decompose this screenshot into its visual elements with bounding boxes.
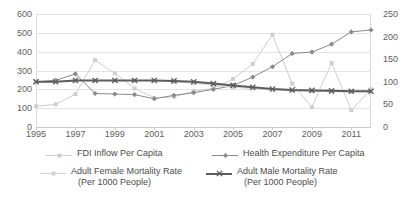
data-point-marker [112,91,117,96]
chart-container: 0100200300400500600 050100150200250 1995… [0,0,407,210]
data-point-marker [113,71,117,75]
x-axis-tick-label: 1997 [65,130,85,139]
x-axis-tick-label: 1995 [26,130,46,139]
legend-label-sub: (Per 1000 People) [71,177,182,188]
plot-area [36,14,371,127]
data-point-marker [250,74,255,79]
data-point-marker [54,102,58,106]
legend-marker-icon [206,168,232,179]
secondary-axis-tick-label: 150 [383,55,398,64]
data-point-marker [217,171,222,176]
primary-axis-tick-label: 400 [2,48,32,57]
secondary-axis-tick-label: 0 [383,123,388,132]
data-point-marker [231,77,235,81]
data-point-marker [349,108,353,112]
x-axis-labels: 199519971999200120032005200720092011 [36,130,371,142]
secondary-axis-tick-label: 200 [383,33,398,42]
data-point-marker [309,49,314,54]
secondary-axis-tick-label: 250 [383,10,398,19]
data-point-marker [73,92,77,96]
legend-item[interactable]: Adult Female Mortality Rate(Per 1000 Peo… [40,166,182,188]
x-axis-tick-label: 2011 [342,130,361,139]
data-point-marker [330,61,334,65]
x-axis-tick-label: 2009 [302,130,322,139]
primary-axis-tick-label: 500 [2,29,32,38]
chart-legend: FDI Inflow Per CapitaHealth Expenditure … [0,146,407,210]
data-point-marker [290,82,294,86]
legend-marker-icon [46,150,72,161]
x-axis-tick-label: 1999 [105,130,125,139]
x-axis-tick-label: 2005 [223,130,243,139]
legend-item[interactable]: Health Expenditure Per Capita [212,148,365,161]
data-point-marker [223,153,228,158]
series-line [36,35,371,110]
legend-item[interactable]: Adult Male Mortality Rate(Per 1000 Peopl… [206,166,338,188]
data-point-marker [270,33,274,37]
data-point-marker [132,92,137,97]
data-point-marker [310,105,314,109]
data-point-marker [349,29,354,34]
data-point-marker [34,104,38,108]
legend-label: Adult Female Mortality Rate(Per 1000 Peo… [71,166,182,188]
legend-label: Health Expenditure Per Capita [243,148,365,159]
primary-axis-tick-label: 600 [2,10,32,19]
data-point-marker [368,27,373,32]
data-point-marker [251,62,255,66]
primary-axis-tick-label: 300 [2,67,32,76]
primary-axis-tick-label: 200 [2,85,32,94]
data-point-marker [93,58,97,62]
secondary-axis-tick-label: 100 [383,78,398,87]
legend-marker-icon [40,168,66,179]
gridline [36,127,371,128]
legend-label: Adult Male Mortality Rate(Per 1000 Peopl… [237,166,338,188]
x-axis-tick-label: 2007 [262,130,282,139]
series-fdi-inflow-per-capita [34,33,373,112]
data-point-marker [133,86,137,90]
legend-label-sub: (Per 1000 People) [237,177,338,188]
data-point-marker [58,154,62,158]
series-layer [36,14,371,127]
secondary-axis-tick-label: 50 [383,100,393,109]
primary-axis-tick-label: 100 [2,104,32,113]
data-point-marker [52,172,56,176]
x-axis-tick-label: 2003 [184,130,204,139]
legend-label: FDI Inflow Per Capita [77,148,163,159]
legend-marker-icon [212,150,238,161]
data-point-marker [329,42,334,47]
legend-item[interactable]: FDI Inflow Per Capita [46,148,163,161]
x-axis-tick-label: 2001 [144,130,164,139]
